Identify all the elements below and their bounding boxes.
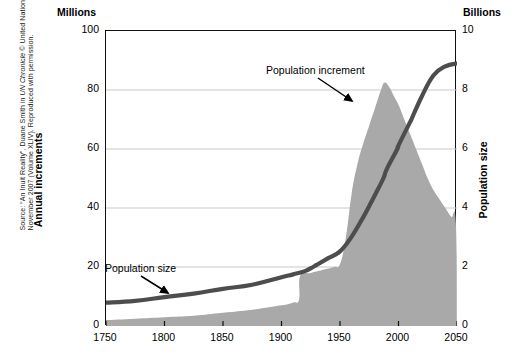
left-axis-tick-label: 60 — [69, 141, 99, 153]
right-axis-tick-label: 0 — [462, 318, 492, 330]
left-axis-tick-label: 0 — [69, 318, 99, 330]
population-increment-area — [106, 83, 457, 326]
source-credit-publication: UN Chronicle — [19, 53, 27, 96]
left-axis-unit-caption: Millions — [57, 6, 96, 18]
source-credit-prefix: Source: “An Inuit Reality”, Duane Smith … — [19, 95, 27, 230]
left-axis-tick-label: 20 — [69, 259, 99, 271]
left-axis-tick-label: 80 — [69, 82, 99, 94]
x-axis-tick-label: 1900 — [261, 331, 301, 343]
x-axis-tick-label: 1950 — [319, 331, 359, 343]
x-axis-tick-label: 2000 — [378, 331, 418, 343]
left-axis-title: Annual increments — [32, 125, 44, 235]
left-axis-tick-label: 40 — [69, 200, 99, 212]
x-axis-tick-label: 1850 — [202, 331, 242, 343]
population-chart-figure: Source: “An Inuit Reality”, Duane Smith … — [0, 0, 518, 361]
left-axis-tick-label: 100 — [69, 23, 99, 35]
right-axis-tick-label: 6 — [462, 141, 492, 153]
right-axis-tick-label: 4 — [462, 200, 492, 212]
right-axis-tick-label: 8 — [462, 82, 492, 94]
x-axis-tick-label: 1800 — [144, 331, 184, 343]
x-axis-tick-label: 1750 — [85, 331, 125, 343]
right-axis-unit-caption: Billions — [463, 6, 501, 18]
annotation-population-increment: Population increment — [266, 64, 365, 76]
right-axis-tick-label: 10 — [462, 23, 492, 35]
x-axis-tick-label: 2050 — [436, 331, 476, 343]
right-axis-tick-label: 2 — [462, 259, 492, 271]
annotation-population-size: Population size — [105, 262, 176, 274]
